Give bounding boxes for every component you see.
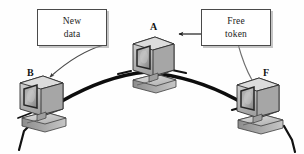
callout-new-data-line2: data — [64, 28, 81, 41]
callout-free-token-line2: token — [225, 28, 247, 41]
diagram-canvas: New data Free token A B F — [0, 0, 304, 154]
computer-node-b[interactable] — [18, 76, 66, 150]
link-arc-a-f — [160, 74, 246, 105]
annotation-curve-free-token-to-f — [238, 44, 252, 80]
node-label-f: F — [263, 67, 269, 78]
annotation-arrow-new-data-to-b — [50, 45, 104, 77]
callout-new-data[interactable]: New data — [37, 9, 107, 46]
node-label-a: A — [150, 21, 158, 32]
computer-node-f[interactable] — [232, 78, 295, 152]
callout-free-token-line1: Free — [227, 15, 245, 28]
node-label-b: B — [27, 67, 34, 78]
callout-new-data-line1: New — [63, 15, 82, 28]
computer-node-a[interactable] — [118, 37, 186, 93]
callout-free-token[interactable]: Free token — [201, 9, 271, 46]
